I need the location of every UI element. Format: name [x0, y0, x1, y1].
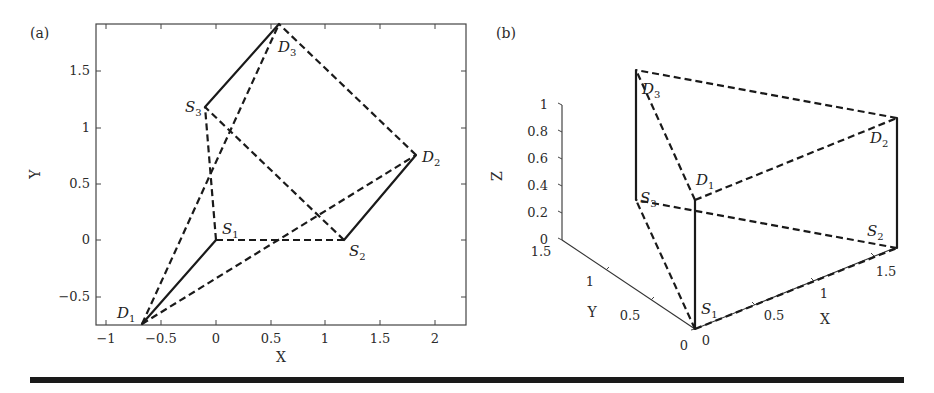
x-tick-label: −1	[96, 331, 115, 346]
z-tick-label: 0.8	[527, 124, 548, 139]
panel-a: (a) −1 −0.5 0 0.5 1 1.5	[27, 24, 466, 365]
label-s2: S2	[349, 242, 366, 262]
panel-a-y-axis-label: Y	[27, 169, 43, 180]
x-tick-label: 0	[702, 333, 710, 348]
panel-b-solid-edges	[636, 70, 897, 329]
x-tick-label: 0.5	[764, 308, 785, 323]
z-tick-label: 1	[540, 97, 548, 112]
edge-s1-d1	[142, 240, 216, 324]
label-d2: D2	[421, 148, 440, 168]
panel-b-y-axis-label: Y	[586, 304, 597, 320]
label-d1: D1	[116, 304, 135, 324]
panel-a-y-tick-labels: −0.5 0 0.5 1 1.5	[58, 63, 90, 304]
label-s3: S3	[185, 98, 202, 118]
panel-b-x-tick-labels: 0 0.5 1 1.5	[702, 264, 896, 348]
x-tick-label: −0.5	[145, 331, 177, 346]
y-tick-label: 0.5	[620, 308, 641, 323]
x-axis	[695, 247, 897, 329]
x-tick-label: 1.5	[876, 264, 897, 279]
panel-a-solid-edges	[142, 24, 416, 324]
panel-a-plot-frame	[96, 24, 466, 325]
label-d2: D2	[869, 129, 888, 149]
edge-s2-d2	[344, 155, 416, 240]
z-tick-label: 0.6	[527, 151, 548, 166]
y-tick-label: 1	[586, 274, 594, 289]
x-tick-label: 1	[820, 286, 828, 301]
panel-b-dashed-edges	[636, 70, 897, 329]
edge-d2-d3	[279, 24, 416, 155]
edge-s2-s3	[636, 200, 897, 248]
panel-a-label: (a)	[30, 25, 49, 41]
panel-b-z-axis-label: Z	[489, 171, 505, 181]
label-d3: D3	[641, 80, 660, 100]
edge-s3-d3	[205, 24, 279, 107]
panel-a-x-ticks	[106, 24, 435, 325]
x-tick-label: 2	[431, 331, 439, 346]
y-tick-label: 0.5	[69, 176, 90, 191]
panel-b: (b) 0 0.2 0.4 0.6	[489, 25, 897, 353]
y-tick-label: 0	[82, 232, 90, 247]
panel-a-x-tick-labels: −1 −0.5 0 0.5 1 1.5 2	[96, 331, 439, 346]
panel-a-x-axis-label: X	[276, 349, 286, 365]
y-tick-label: 1	[82, 120, 90, 135]
panel-b-y-tick-labels: 0 0.5 1 1.5	[531, 244, 688, 353]
panel-a-y-ticks	[96, 71, 466, 297]
x-tick-label: 0.5	[261, 331, 282, 346]
x-tick-label: 1.5	[370, 331, 391, 346]
label-s3: S3	[640, 189, 657, 209]
label-d3: D3	[277, 38, 296, 58]
z-tick-label: 0.2	[527, 205, 548, 220]
label-s2: S2	[867, 222, 884, 242]
label-s1: S1	[701, 300, 718, 320]
y-tick-label: 1.5	[69, 63, 90, 78]
edge-d1-d2	[695, 118, 897, 200]
label-s1: S1	[222, 220, 239, 240]
z-tick-label: 0.4	[527, 178, 548, 193]
figure-canvas: (a) −1 −0.5 0 0.5 1 1.5	[0, 0, 934, 393]
panel-b-axes	[558, 103, 897, 330]
bottom-rule	[30, 377, 904, 383]
label-d1: D1	[695, 171, 714, 191]
panel-b-x-axis-label: X	[820, 311, 830, 327]
x-tick-label: 0	[212, 331, 220, 346]
edge-d2-d3	[636, 70, 897, 118]
panel-a-point-labels: S1 S2 S3 D1 D2 D3	[116, 38, 440, 324]
y-tick-label: 0	[680, 338, 688, 353]
y-tick-label: −0.5	[58, 289, 90, 304]
panel-b-z-tick-labels: 0 0.2 0.4 0.6 0.8 1	[527, 97, 548, 247]
panel-b-label: (b)	[496, 25, 516, 41]
edge-d1-d2	[142, 155, 416, 324]
panel-b-point-labels: S1 S2 S3 D1 D2 D3	[640, 80, 888, 320]
x-tick-label: 1	[321, 331, 329, 346]
y-tick-label: 1.5	[531, 244, 552, 259]
